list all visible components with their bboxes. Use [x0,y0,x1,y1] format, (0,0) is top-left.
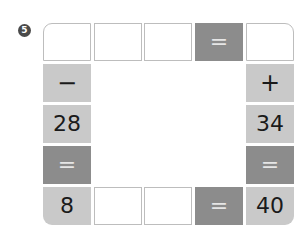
right-equals-sign: = [246,146,294,184]
problem-number-badge: 5 [18,24,31,37]
left-equals-sign: = [43,146,91,184]
bottom-equals-sign: = [195,187,243,225]
top-cell-5-input[interactable] [246,23,294,61]
bottom-cell-3-input[interactable] [144,187,192,225]
top-cell-2-input[interactable] [94,23,142,61]
right-plus-sign: + [246,64,294,102]
bottom-number-40: 40 [246,187,294,225]
bottom-cell-2-input[interactable] [94,187,142,225]
bottom-number-8: 8 [43,187,91,225]
top-cell-1-input[interactable] [43,23,91,61]
right-number-34: 34 [246,105,294,143]
left-number-28: 28 [43,105,91,143]
top-cell-3-input[interactable] [144,23,192,61]
top-equals-sign: = [195,23,243,61]
left-minus-sign: − [43,64,91,102]
